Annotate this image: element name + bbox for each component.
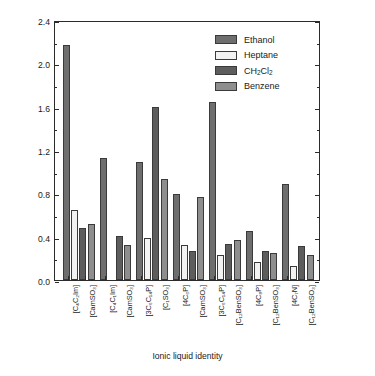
legend-label: Ethanol <box>244 35 275 45</box>
bar-ch2cl2 <box>152 107 159 280</box>
x-axis-tick <box>287 276 288 280</box>
legend-swatch <box>215 51 237 60</box>
x-axis-tick-label: [C₄C₂Im] <box>71 285 82 341</box>
x-axis-tick-label: [3C₆C₁₄P] <box>217 285 228 341</box>
bar-ch2cl2 <box>79 228 86 280</box>
bar-heptane <box>144 238 151 280</box>
bar-heptane <box>290 266 297 280</box>
legend-item: Heptane <box>215 48 280 64</box>
x-axis-tick-label: [C₁₂BenSO₃] <box>234 285 245 341</box>
y-axis-tick-label: 2.0 <box>38 60 50 70</box>
legend-swatch <box>215 35 237 44</box>
bar-heptane <box>254 262 261 280</box>
bar-benzene <box>234 240 241 280</box>
y-axis-tick <box>315 282 319 283</box>
x-axis-tick <box>141 276 142 280</box>
bar-ethanol <box>173 194 180 280</box>
x-axis-tick-label: [C₁₂BenSO₃] <box>307 285 318 341</box>
x-axis-tick <box>158 276 159 280</box>
bar-ethanol <box>136 162 143 280</box>
x-axis-tick <box>251 276 252 280</box>
x-axis-tick-label: [CamSO₃] <box>88 285 99 341</box>
bar-benzene <box>88 224 95 280</box>
bar-heptane <box>71 210 78 280</box>
bar-ch2cl2 <box>116 236 123 280</box>
bar-benzene <box>161 179 168 280</box>
plot-area: 0.00.40.81.21.62.02.4 EthanolHeptaneCH2C… <box>54 21 320 281</box>
chart-figure: Δf (Hz/100 mg/L gas/µg IL) 0.00.40.81.21… <box>0 0 375 376</box>
x-axis-tick <box>122 276 123 280</box>
y-axis-tick-label: 2.4 <box>38 17 50 27</box>
x-axis-tick-label: [C₄C₁Im] <box>108 285 119 341</box>
x-axis-tick-label: [C₁₂BenSO₃] <box>271 285 282 341</box>
x-axis-tick <box>68 276 69 280</box>
x-axis-tick <box>85 276 86 280</box>
y-axis-tick-label: 0.4 <box>38 234 50 244</box>
x-axis-tick-label: [C₁SO₃] <box>161 285 172 341</box>
bar-ethanol <box>209 102 216 280</box>
x-axis-tick-label: [CamSO₃] <box>125 285 136 341</box>
bar-heptane <box>181 245 188 280</box>
legend-label: CH2Cl2 <box>244 66 273 76</box>
x-axis-tick <box>268 276 269 280</box>
x-axis-tick-label: [3C₆C₁₄P] <box>144 285 155 341</box>
x-axis-tick <box>105 276 106 280</box>
x-axis-tick <box>214 276 215 280</box>
bar-ethanol <box>282 184 289 280</box>
bar-benzene <box>124 245 131 280</box>
bar-benzene <box>197 197 204 280</box>
x-axis-tick-label: [4C₈P] <box>254 285 265 341</box>
bar-ch2cl2 <box>225 244 232 280</box>
legend-label: Benzene <box>244 81 280 91</box>
legend-label: Heptane <box>244 50 278 60</box>
x-axis-tick <box>178 276 179 280</box>
x-axis-title: Ionic liquid identity <box>0 351 375 361</box>
x-axis-tick <box>231 276 232 280</box>
bar-ethanol <box>63 45 70 280</box>
bar-ethanol <box>246 231 253 280</box>
y-axis-tick <box>55 282 59 283</box>
legend-swatch <box>215 66 237 75</box>
x-axis-tick-label: [4C₆P] <box>181 285 192 341</box>
x-axis-tick-label: [4C₇N] <box>290 285 301 341</box>
x-axis-tick <box>195 276 196 280</box>
y-axis-tick-label: 1.2 <box>38 147 50 157</box>
legend: EthanolHeptaneCH2Cl2Benzene <box>215 32 280 94</box>
legend-item: Ethanol <box>215 32 280 48</box>
y-axis-tick-label: 0.0 <box>38 277 50 287</box>
bar-ch2cl2 <box>298 246 305 280</box>
legend-swatch <box>215 82 237 91</box>
x-axis-tick <box>304 276 305 280</box>
bar-benzene <box>270 253 277 280</box>
y-axis-tick-label: 0.8 <box>38 190 50 200</box>
legend-item: Benzene <box>215 79 280 95</box>
bar-ethanol <box>100 158 107 280</box>
bar-benzene <box>307 255 314 280</box>
legend-item: CH2Cl2 <box>215 63 280 79</box>
y-axis-tick-label: 1.6 <box>38 104 50 114</box>
bar-heptane <box>217 255 224 280</box>
x-axis-tick-label: [CamSO₃] <box>198 285 209 341</box>
